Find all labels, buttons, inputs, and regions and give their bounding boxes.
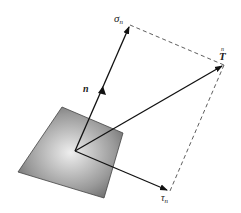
tau-n-label: τn: [161, 192, 169, 205]
sigma-n-label: σn: [114, 12, 123, 26]
traction-label: T: [219, 50, 227, 62]
dashed-edge-right: [170, 65, 224, 191]
surface-plane: [18, 107, 123, 198]
normal-label: n: [83, 83, 89, 94]
traction-vector: [75, 66, 222, 151]
dashed-edge-top: [130, 25, 224, 65]
normal-arrowhead-icon: [98, 86, 106, 95]
stress-vector-diagram: σn n T n τn: [0, 0, 241, 213]
